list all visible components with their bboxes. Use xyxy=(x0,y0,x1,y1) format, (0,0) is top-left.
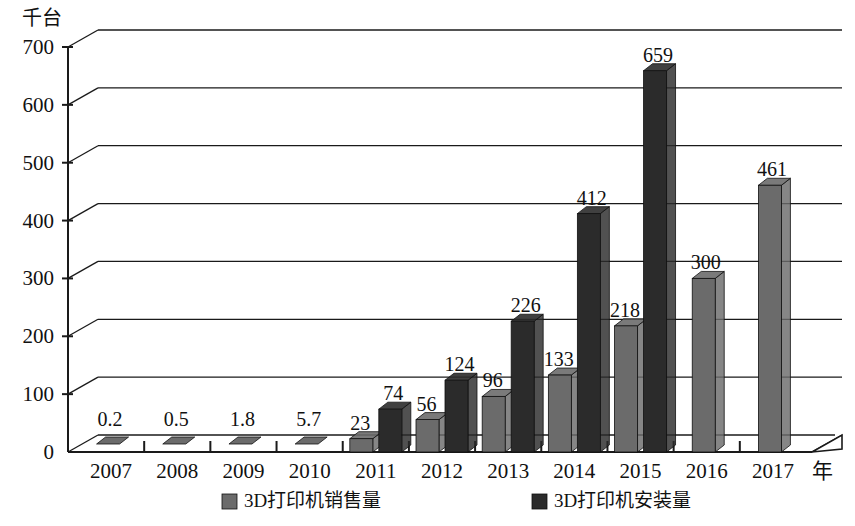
bar-2011-sales xyxy=(350,432,382,452)
y-axis-tick-labels: 0100200300400500600700 xyxy=(23,35,55,464)
bar-2014-sales xyxy=(548,368,580,452)
y-axis-tick-0: 0 xyxy=(44,440,55,464)
bar-2007-sales xyxy=(97,437,129,444)
x-axis-label-2017: 2017 xyxy=(752,459,794,483)
bar-2017-sales-side xyxy=(781,178,790,452)
bar-2008-sales xyxy=(163,437,195,444)
x-axis-label-2013: 2013 xyxy=(487,459,529,483)
value-label-2007-sales: 0.2 xyxy=(98,408,123,430)
bar-chart-svg: 千台 0100200300400500600700 0.20.51.85.723… xyxy=(0,0,855,526)
bar-2016-sales-front xyxy=(692,278,715,452)
y-axis-tick-400: 400 xyxy=(23,209,55,233)
bar-2014-sales-front xyxy=(548,375,571,452)
gridline-depth-300 xyxy=(68,261,98,278)
value-label-2012-sales: 56 xyxy=(417,393,437,415)
bar-2014-installs-side xyxy=(600,207,609,452)
value-label-2013-sales: 96 xyxy=(483,369,503,391)
bar-2011-installs-side xyxy=(402,402,411,452)
bar-2014-installs-front xyxy=(577,214,600,452)
value-label-2011-installs: 74 xyxy=(383,382,403,404)
legend-label-0: 3D打印机销售量 xyxy=(244,490,381,511)
bar-2012-sales-front xyxy=(416,420,439,452)
bar-2013-installs-front xyxy=(511,321,534,452)
y-axis-tick-100: 100 xyxy=(23,382,55,406)
bar-2016-sales-side xyxy=(715,271,724,452)
bar-2009-sales xyxy=(229,437,261,444)
y-axis-tick-600: 600 xyxy=(23,93,55,117)
y-axis-tick-500: 500 xyxy=(23,151,55,175)
x-axis-labels-group: 2007200820092010201120122013201420152016… xyxy=(90,459,794,483)
y-axis-unit-label: 千台 xyxy=(22,7,62,29)
value-label-2013-installs: 226 xyxy=(511,294,541,316)
x-axis-label-2009: 2009 xyxy=(222,459,264,483)
gridline-depth-500 xyxy=(68,146,98,163)
bar-2017-sales-front xyxy=(758,185,781,452)
bar-2011-installs xyxy=(379,402,411,452)
legend-swatch-1 xyxy=(532,494,547,509)
bar-2012-installs-front xyxy=(445,380,468,452)
x-axis-label-2008: 2008 xyxy=(156,459,198,483)
value-label-2009-sales: 1.8 xyxy=(230,408,255,430)
bar-2009-sales-top xyxy=(229,437,261,444)
bar-2017-sales xyxy=(758,178,790,452)
x-axis-label-2011: 2011 xyxy=(355,459,396,483)
bar-2015-installs xyxy=(644,64,676,452)
bars-group xyxy=(97,64,791,452)
value-label-2014-sales: 133 xyxy=(544,348,574,370)
bar-2008-sales-top xyxy=(163,437,195,444)
bar-2015-installs-front xyxy=(644,71,667,452)
gridline-depth-700 xyxy=(68,30,98,47)
legend-label-1: 3D打印机安装量 xyxy=(554,490,691,511)
value-label-2017-sales: 461 xyxy=(757,158,787,180)
bar-2015-sales-front xyxy=(615,326,638,452)
y-axis-tick-200: 200 xyxy=(23,324,55,348)
x-axis-label-2014: 2014 xyxy=(553,459,596,483)
bar-2016-sales xyxy=(692,271,724,452)
y-axis-tick-300: 300 xyxy=(23,266,55,290)
x-axis-label-2016: 2016 xyxy=(686,459,728,483)
value-label-2014-installs: 412 xyxy=(577,187,607,209)
value-label-2010-sales: 5.7 xyxy=(296,408,321,430)
x-axis-label-2007: 2007 xyxy=(90,459,132,483)
bar-2012-sales xyxy=(416,413,448,452)
bar-2013-installs-side xyxy=(534,314,543,452)
bar-2013-installs xyxy=(511,314,543,452)
bar-2012-installs-side xyxy=(468,373,477,452)
value-label-2016-sales: 300 xyxy=(691,251,721,273)
y-axis-tick-700: 700 xyxy=(23,35,55,59)
x-axis-label-2015: 2015 xyxy=(620,459,662,483)
value-label-2012-installs: 124 xyxy=(445,353,475,375)
value-label-2011-sales: 23 xyxy=(350,412,370,434)
bar-2013-sales xyxy=(482,389,514,452)
gridline-depth-400 xyxy=(68,204,98,221)
value-label-2015-installs: 659 xyxy=(643,44,673,66)
x-axis-arrowhead xyxy=(812,435,842,452)
x-axis-label-2012: 2012 xyxy=(421,459,463,483)
bar-2011-sales-front xyxy=(350,439,373,452)
value-label-2015-sales: 218 xyxy=(610,299,640,321)
bar-2012-installs xyxy=(445,373,477,452)
bar-2007-sales-top xyxy=(97,437,129,444)
x-axis-unit-label: 年 xyxy=(812,459,833,483)
gridline-depth-200 xyxy=(68,319,98,336)
x-axis-label-2010: 2010 xyxy=(289,459,331,483)
bar-2015-installs-side xyxy=(667,64,676,452)
gridline-depth-100 xyxy=(68,377,98,394)
bar-2010-sales xyxy=(295,437,327,444)
chart-container: 千台 0100200300400500600700 0.20.51.85.723… xyxy=(0,0,855,526)
bar-2014-installs xyxy=(577,207,609,452)
value-label-2008-sales: 0.5 xyxy=(164,408,189,430)
floor-left-edge xyxy=(68,435,98,452)
legend-swatch-0 xyxy=(222,494,237,509)
bar-2015-sales xyxy=(615,319,647,452)
gridlines-group xyxy=(62,30,842,394)
bar-2011-installs-front xyxy=(379,409,402,452)
gridline-depth-600 xyxy=(68,88,98,105)
bar-2013-sales-front xyxy=(482,396,505,452)
legend: 3D打印机销售量3D打印机安装量 xyxy=(222,490,691,511)
bar-2010-sales-top xyxy=(295,437,327,444)
value-labels-group: 0.20.51.85.72374561249622613341221865930… xyxy=(98,44,787,434)
